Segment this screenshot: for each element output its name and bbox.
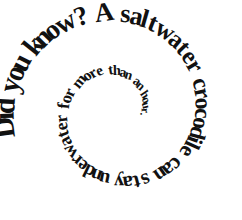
spiral-text-canvas: Didyouknow?Asaltwatercrocodilecanstayund…	[0, 0, 242, 220]
spiral-fact-graphic: Didyouknow?Asaltwatercrocodilecanstayund…	[0, 0, 242, 220]
spiral-letter: y	[113, 171, 124, 194]
spiral-letter: d	[0, 96, 21, 115]
